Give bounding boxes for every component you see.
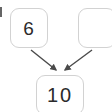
cropped-glyph-fragment [0, 7, 2, 17]
sum-box[interactable]: 10 [36, 75, 84, 112]
arrow-left-to-sum [31, 50, 56, 70]
arrow-right-to-sum [65, 50, 92, 70]
addend-left-value: 6 [23, 19, 35, 38]
addend-right-box[interactable] [78, 8, 112, 48]
sum-value: 10 [47, 85, 73, 105]
addend-left-box[interactable]: 6 [10, 8, 48, 48]
number-bond-diagram: 6 10 [0, 0, 112, 112]
